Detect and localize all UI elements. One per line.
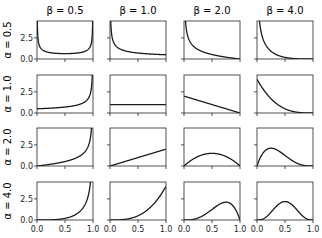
pdf-curve bbox=[110, 186, 166, 220]
x-tick-label: 1.0 bbox=[234, 225, 247, 234]
axes-frame bbox=[110, 182, 166, 220]
row-label-alpha: α = 1.0 bbox=[2, 75, 13, 112]
subplot-panel bbox=[181, 128, 240, 169]
subplot-panel bbox=[181, 75, 240, 116]
axes-frame bbox=[257, 75, 313, 113]
pdf-curve bbox=[257, 202, 313, 220]
axes-frame bbox=[37, 182, 93, 220]
y-tick-label: 0.0 bbox=[20, 55, 33, 64]
x-tick-label: 0.5 bbox=[206, 225, 219, 234]
pdf-curve bbox=[257, 148, 313, 166]
subplot-panel: 0.00.51.0 bbox=[251, 182, 320, 234]
subplot-panel bbox=[254, 75, 313, 116]
x-tick-label: 0.5 bbox=[279, 225, 292, 234]
x-tick-label: 0.0 bbox=[178, 225, 191, 234]
column-title-beta: β = 1.0 bbox=[119, 5, 156, 16]
subplot-panel bbox=[254, 128, 313, 169]
pdf-curve bbox=[184, 202, 240, 220]
column-title-beta: β = 4.0 bbox=[266, 5, 303, 16]
y-tick-label: 0.0 bbox=[20, 109, 33, 118]
axes-frame bbox=[110, 128, 166, 166]
axes-frame bbox=[184, 182, 240, 220]
subplot-panel: 0.00.51.0 bbox=[178, 182, 247, 234]
y-tick-label: 2.5 bbox=[20, 34, 33, 43]
beta-pdf-grid-figure: β = 0.5β = 1.0β = 2.0β = 4.0α = 0.50.02.… bbox=[0, 0, 322, 238]
axes-frame bbox=[110, 75, 166, 113]
subplot-panel bbox=[107, 75, 166, 116]
axes-frame bbox=[184, 21, 240, 59]
row-label-alpha: α = 4.0 bbox=[2, 182, 13, 219]
axes-frame bbox=[257, 128, 313, 166]
column-title-beta: β = 2.0 bbox=[193, 5, 230, 16]
y-tick-label: 2.5 bbox=[20, 88, 33, 97]
axes-frame bbox=[37, 128, 93, 166]
x-tick-label: 1.0 bbox=[87, 225, 100, 234]
x-tick-label: 0.5 bbox=[132, 225, 145, 234]
y-tick-label: 2.5 bbox=[20, 141, 33, 150]
subplot-panel bbox=[107, 128, 166, 169]
x-tick-label: 1.0 bbox=[307, 225, 320, 234]
pdf-curve bbox=[257, 79, 313, 113]
y-tick-label: 0.0 bbox=[20, 216, 33, 225]
pdf-curve bbox=[110, 149, 166, 166]
axes-frame bbox=[257, 21, 313, 59]
column-title-beta: β = 0.5 bbox=[46, 5, 83, 16]
axes-frame bbox=[184, 75, 240, 113]
row-label-alpha: α = 0.5 bbox=[2, 21, 13, 58]
x-tick-label: 1.0 bbox=[160, 225, 173, 234]
y-tick-label: 2.5 bbox=[20, 195, 33, 204]
y-tick-label: 0.0 bbox=[20, 162, 33, 171]
x-tick-label: 0.0 bbox=[31, 225, 44, 234]
pdf-curve bbox=[37, 0, 93, 109]
pdf-curve bbox=[184, 153, 240, 166]
x-tick-label: 0.0 bbox=[104, 225, 117, 234]
x-tick-label: 0.0 bbox=[251, 225, 264, 234]
x-tick-label: 0.5 bbox=[59, 225, 72, 234]
pdf-curve bbox=[184, 96, 240, 113]
row-label-alpha: α = 2.0 bbox=[2, 128, 13, 165]
subplot-panel: 0.00.51.0 bbox=[104, 182, 173, 234]
pdf-curve bbox=[37, 106, 93, 220]
